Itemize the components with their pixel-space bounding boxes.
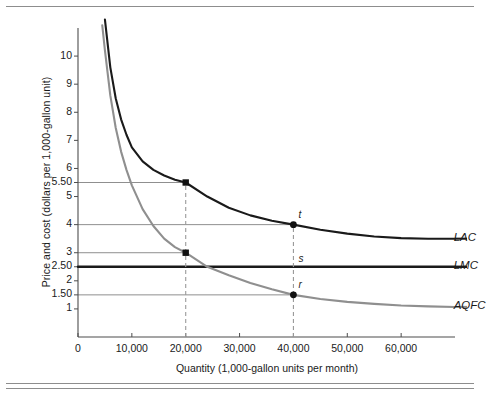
y-tick-label: 3 bbox=[28, 245, 72, 257]
data-point-marker bbox=[290, 291, 297, 298]
y-tick-label: 2.50 bbox=[28, 259, 72, 271]
y-tick-label: 1 bbox=[28, 301, 72, 313]
y-tick-label: 8 bbox=[28, 105, 72, 117]
legend-stubs-group bbox=[455, 239, 467, 307]
curve-aqfc bbox=[102, 25, 455, 307]
y-tick-label: 2 bbox=[28, 273, 72, 285]
x-tick-label: 40,000 bbox=[263, 342, 323, 354]
x-tick-label: 10,000 bbox=[102, 342, 162, 354]
y-tick-label: 7 bbox=[28, 133, 72, 145]
x-axis-title: Quantity (1,000-gallon units per month) bbox=[78, 362, 456, 374]
y-tick-label: 5.50 bbox=[28, 175, 72, 187]
point-label-r: r bbox=[298, 279, 301, 290]
data-markers-group bbox=[183, 179, 297, 298]
curve-label-lac: LAC bbox=[454, 231, 476, 243]
curve-lac bbox=[105, 20, 455, 239]
data-point-marker bbox=[183, 250, 189, 256]
data-point-marker bbox=[290, 221, 297, 228]
point-label-s: s bbox=[298, 253, 303, 264]
y-tick-label: 6 bbox=[28, 161, 72, 173]
y-tick-label: 4 bbox=[28, 217, 72, 229]
y-tick-label: 10 bbox=[28, 49, 72, 61]
x-tick-label: 60,000 bbox=[371, 342, 431, 354]
curve-label-aqfc: AQFC bbox=[454, 299, 486, 311]
x-tick-label: 0 bbox=[48, 342, 108, 354]
data-point-marker bbox=[183, 179, 189, 185]
y-tick-label: 9 bbox=[28, 77, 72, 89]
x-tick-label: 20,000 bbox=[156, 342, 216, 354]
x-tick-label: 50,000 bbox=[317, 342, 377, 354]
x-tick-label: 30,000 bbox=[210, 342, 270, 354]
curves-group bbox=[78, 20, 455, 307]
dashed-guides-group bbox=[186, 183, 294, 338]
curve-label-lmc: LMC bbox=[454, 259, 478, 271]
y-tick-label: 1.50 bbox=[28, 287, 72, 299]
point-label-t: t bbox=[298, 209, 301, 220]
y-tick-label: 5 bbox=[28, 189, 72, 201]
